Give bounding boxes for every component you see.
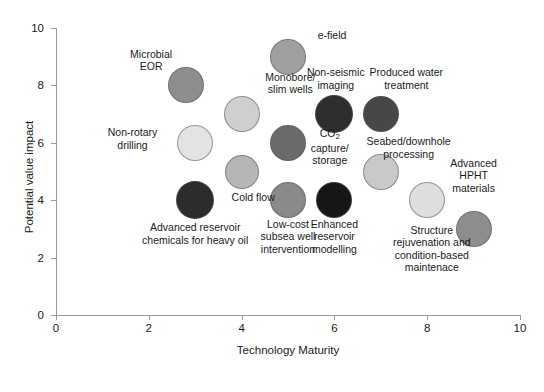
data-point-label: Enhanced reservoir modelling — [311, 218, 358, 255]
x-tick-label: 0 — [36, 322, 76, 334]
y-axis-title: Potential value impact — [23, 62, 35, 292]
data-bubble[interactable] — [177, 125, 213, 161]
x-axis-title: Technology Maturity — [56, 344, 520, 356]
y-tick-mark — [51, 200, 56, 201]
x-tick-mark — [149, 315, 150, 320]
data-bubble[interactable] — [176, 181, 214, 219]
x-tick-label: 2 — [129, 322, 169, 334]
data-point-label: Low-cost subsea well intervention — [261, 218, 316, 255]
data-point-label: CO2 capture/ storage — [311, 127, 349, 166]
x-tick-mark — [56, 315, 57, 320]
data-point-label: Seabed/downhole processing — [367, 135, 451, 160]
y-tick-mark — [51, 143, 56, 144]
x-tick-mark — [242, 315, 243, 320]
x-tick-mark — [520, 315, 521, 320]
x-tick-mark — [334, 315, 335, 320]
data-bubble[interactable] — [224, 96, 260, 132]
data-point-label: Structure rejuvenation and condition-bas… — [393, 224, 471, 274]
y-tick-mark — [51, 258, 56, 259]
data-point-label: Produced water treatment — [370, 66, 444, 91]
x-tick-label: 10 — [500, 322, 540, 334]
data-bubble[interactable] — [225, 155, 259, 189]
data-bubble[interactable] — [316, 182, 352, 218]
data-point-label: Non-rotary drilling — [108, 126, 158, 151]
bubble-chart: 0246810 0246810 Potential value impact T… — [0, 0, 544, 392]
x-tick-label: 4 — [222, 322, 262, 334]
data-point-label: Non-seismic imaging — [307, 66, 365, 91]
data-point-label: e-field — [318, 29, 347, 41]
data-bubble[interactable] — [270, 182, 306, 218]
data-point-label: Microbial EOR — [130, 47, 172, 72]
data-point-label: Advanced reservoir chemicals for heavy o… — [142, 221, 248, 246]
y-tick-label: 10 — [10, 22, 44, 34]
data-point-label: Advanced HPHT materials — [438, 157, 508, 194]
x-tick-mark — [427, 315, 428, 320]
x-tick-label: 6 — [314, 322, 354, 334]
x-axis-line — [56, 315, 520, 316]
data-point-label: Cold flow — [232, 191, 275, 203]
y-tick-mark — [51, 85, 56, 86]
x-tick-label: 8 — [407, 322, 447, 334]
y-axis-line — [56, 28, 57, 316]
data-bubble[interactable] — [363, 96, 399, 132]
y-tick-label: 0 — [10, 309, 44, 321]
y-tick-mark — [51, 28, 56, 29]
data-bubble[interactable] — [168, 67, 204, 103]
data-bubble[interactable] — [270, 125, 306, 161]
